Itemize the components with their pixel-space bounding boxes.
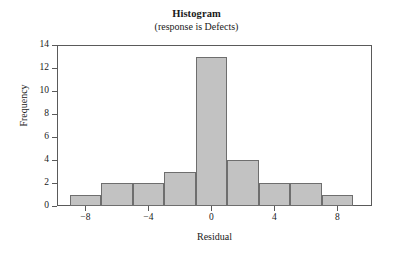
x-axis-tick (274, 206, 275, 211)
y-axis-tick (52, 91, 57, 92)
x-axis-tick-label: −8 (65, 213, 105, 223)
histogram-bar (101, 183, 133, 206)
y-axis-tick (52, 183, 57, 184)
x-axis-tick-label: 0 (191, 213, 231, 223)
y-axis-tick-label: 8 (9, 109, 49, 119)
histogram-bar (227, 160, 259, 206)
y-axis-tick-label: 14 (9, 40, 49, 50)
histogram-bars (57, 45, 372, 206)
y-axis-tick (52, 45, 57, 46)
histogram-bar (322, 195, 354, 207)
x-axis-tick (211, 206, 212, 211)
histogram-bar (133, 183, 165, 206)
histogram-bar (164, 172, 196, 207)
x-axis-tick (148, 206, 149, 211)
x-axis-tick-label: 8 (317, 213, 357, 223)
y-axis-tick-label: 12 (9, 63, 49, 73)
y-axis-title: Frequency (18, 36, 29, 176)
x-axis-tick-label: −4 (128, 213, 168, 223)
histogram-figure: Histogram (response is Defects) 02468101… (0, 0, 393, 255)
x-axis-tick (85, 206, 86, 211)
x-axis-title: Residual (57, 231, 372, 242)
title-block: Histogram (response is Defects) (0, 8, 393, 32)
y-axis-tick (52, 68, 57, 69)
y-axis-tick (52, 137, 57, 138)
y-axis-tick-label: 4 (9, 155, 49, 165)
y-axis-tick (52, 160, 57, 161)
y-axis-tick-label: 10 (9, 86, 49, 96)
y-axis-tick-label: 2 (9, 178, 49, 188)
y-axis-tick (52, 206, 57, 207)
y-axis-tick (52, 114, 57, 115)
x-axis-tick (337, 206, 338, 211)
histogram-bar (290, 183, 322, 206)
histogram-bar (196, 57, 228, 207)
histogram-bar (70, 195, 102, 207)
histogram-bar (259, 183, 291, 206)
y-axis-tick-label: 0 (9, 201, 49, 211)
x-axis-tick-label: 4 (254, 213, 294, 223)
chart-title: Histogram (0, 8, 393, 20)
chart-subtitle: (response is Defects) (0, 21, 393, 32)
y-axis-tick-label: 6 (9, 132, 49, 142)
